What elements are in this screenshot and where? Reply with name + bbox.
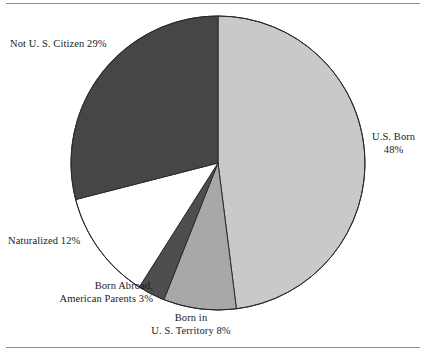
pie-label-us-born-value: 48% [372, 143, 415, 156]
pie-label-naturalized-text: Naturalized 12% [8, 234, 80, 247]
pie-label-naturalized: Naturalized 12% [8, 234, 80, 247]
pie-label-born-abroad: Born Abroad, American Parents 3% [33, 279, 153, 305]
pie-label-not-us-citizen: Not U. S. Citizen 29% [10, 37, 107, 50]
pie-slices-group [71, 16, 365, 310]
pie-label-born-abroad-line1: Born Abroad, [33, 279, 153, 292]
pie-label-us-territory-line1: Born in [128, 311, 254, 324]
pie-label-us-territory: Born in U. S. Territory 8% [128, 311, 254, 337]
pie-label-born-abroad-line2: American Parents 3% [33, 292, 153, 305]
pie-label-us-territory-line2: U. S. Territory 8% [128, 324, 254, 337]
pie-label-not-us-citizen-text: Not U. S. Citizen 29% [10, 37, 107, 50]
pie-chart-figure: Not U. S. Citizen 29% U.S. Born 48% Natu… [0, 0, 426, 356]
pie-label-us-born-name: U.S. Born [372, 130, 415, 143]
pie-label-us-born: U.S. Born 48% [372, 130, 415, 156]
pie-slice-us-born [218, 16, 365, 309]
